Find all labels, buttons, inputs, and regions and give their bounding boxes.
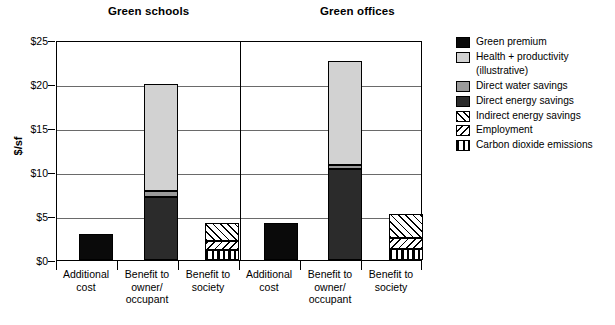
bar-segment-direct-water-savings [144,191,178,196]
bar-segment-employment [389,238,423,249]
panel-divider [240,42,241,260]
y-tick-5: $5 [14,211,48,223]
bar-offices-benefit-society[interactable] [389,214,423,260]
y-tickmark-20 [48,85,55,86]
y-tickmark-15 [48,129,55,130]
legend-swatch-employment-icon [456,125,470,136]
legend-label: Indirect energy savings [476,110,581,122]
legend-label: Employment [476,124,533,136]
y-tickmark-25 [48,41,55,42]
legend-label: Carbon dioxide emissions [476,139,593,151]
legend-swatch-green-premium-icon [456,37,470,48]
bar-schools-benefit-owner-occupant[interactable] [144,84,178,260]
legend-item-health-productivity[interactable]: Health + productivity (illustrative) [456,51,614,78]
y-tick-15: $15 [14,123,48,135]
bar-segment-health-productivity [328,61,362,165]
plot-area [56,41,422,261]
x-label-offices-benefit-society: Benefit to society [348,268,434,293]
bar-segment-health-productivity [144,84,178,191]
legend-item-direct-water-savings[interactable]: Direct water savings [456,80,614,92]
panel-title-green-schools: Green schools [108,5,189,17]
bar-segment-carbon-dioxide-emissions [205,250,239,260]
legend-item-green-premium[interactable]: Green premium [456,36,614,48]
y-axis-tickmarks [48,41,56,261]
y-tick-0: $0 [14,255,48,267]
y-tickmark-5 [48,217,55,218]
legend-label: Green premium [476,36,547,48]
bar-segment-direct-energy-savings [144,197,178,260]
bar-segment-employment [205,241,239,251]
legend-item-employment[interactable]: Employment [456,124,614,136]
bar-segment-green-premium [79,234,113,260]
gridline-5 [57,218,421,219]
x-label-line: society [348,281,434,294]
legend-label: Direct energy savings [476,95,574,107]
bar-segment-carbon-dioxide-emissions [389,249,423,260]
gridline-15 [57,130,421,131]
bar-segment-direct-energy-savings [328,169,362,261]
legend-item-carbon-dioxide-emissions[interactable]: Carbon dioxide emissions [456,139,614,151]
legend-swatch-indirect-energy-savings-icon [456,111,470,122]
x-label-line: Benefit to [348,268,434,281]
y-tick-10: $10 [14,167,48,179]
bar-segment-direct-water-savings [328,165,362,169]
y-axis-ticks: $25 $20 $15 $10 $5 $0 [8,41,48,261]
x-label-line: occupant [104,293,190,306]
bar-segment-indirect-energy-savings [205,223,239,241]
x-label-line: occupant [287,293,373,306]
y-tickmark-0 [48,261,55,262]
bar-segment-green-premium [264,223,298,260]
panel-title-green-offices: Green offices [320,5,395,17]
bar-schools-additional-cost[interactable] [79,234,113,260]
y-tick-20: $20 [14,79,48,91]
legend-label: Direct water savings [476,80,568,92]
bar-offices-additional-cost[interactable] [264,223,298,260]
gridline-10 [57,174,421,175]
y-tick-25: $25 [14,35,48,47]
bar-schools-benefit-society[interactable] [205,223,239,260]
chart-legend: Green premium Health + productivity (ill… [456,36,614,154]
gridline-20 [57,86,421,87]
legend-swatch-health-productivity-icon [456,52,470,63]
legend-swatch-carbon-dioxide-emissions-icon [456,140,470,151]
legend-item-direct-energy-savings[interactable]: Direct energy savings [456,95,614,107]
y-tickmark-10 [48,173,55,174]
bar-segment-indirect-energy-savings [389,214,423,238]
legend-swatch-direct-water-savings-icon [456,81,470,92]
chart-container: Green schools Green offices $/sf $25 $20… [0,0,615,325]
legend-swatch-direct-energy-savings-icon [456,96,470,107]
legend-item-indirect-energy-savings[interactable]: Indirect energy savings [456,110,614,122]
bar-offices-benefit-owner-occupant[interactable] [328,61,362,260]
legend-label-sub: (illustrative) [476,65,614,77]
legend-label: Health + productivity [476,51,569,63]
